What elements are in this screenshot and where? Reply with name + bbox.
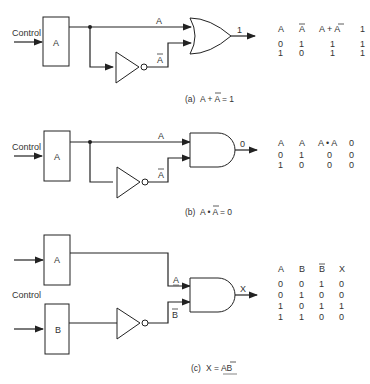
diagram-c: A Control B A B X A B B X 0 0 1 0 0 1 0 … <box>12 235 345 374</box>
svg-text:0: 0 <box>299 279 304 289</box>
and-gate-icon <box>190 133 235 167</box>
caption-b-prefix: (b) <box>185 207 196 217</box>
output-label: X <box>240 284 246 294</box>
svg-text:0: 0 <box>349 150 354 160</box>
caption-b-expr: A • A = 0 <box>200 207 232 217</box>
svg-text:1: 1 <box>299 150 304 160</box>
inverter-icon <box>116 52 139 83</box>
wire-a <box>70 253 190 286</box>
svg-text:1: 1 <box>330 48 335 58</box>
svg-text:0: 0 <box>319 290 324 300</box>
control-label: Control <box>12 28 41 38</box>
svg-text:1: 1 <box>278 301 283 311</box>
svg-text:0: 0 <box>327 150 332 160</box>
svg-text:0: 0 <box>299 301 304 311</box>
svg-text:1: 1 <box>278 312 283 322</box>
svg-text:A: A <box>299 24 305 34</box>
truth-table-b: A A A • A 0 0 1 0 0 1 0 0 0 <box>278 138 354 170</box>
svg-text:0: 0 <box>319 312 324 322</box>
svg-text:0: 0 <box>327 160 332 170</box>
svg-text:1: 1 <box>299 312 304 322</box>
svg-text:0: 0 <box>349 138 354 148</box>
register-box-a-label: A <box>54 255 60 265</box>
wire-a-label: A <box>156 16 162 26</box>
caption-a-expr: A + A = 1 <box>200 94 234 104</box>
and-gate-icon <box>190 278 235 312</box>
wire-a-label: A <box>173 275 179 285</box>
output-label: 0 <box>240 139 245 149</box>
wire-not-b-label: B <box>172 310 178 320</box>
svg-text:B: B <box>319 264 325 274</box>
svg-text:0: 0 <box>339 312 344 322</box>
branch-wire <box>90 27 113 67</box>
branch-wire <box>90 142 113 182</box>
output-label: 1 <box>237 25 242 35</box>
svg-text:0: 0 <box>278 279 283 289</box>
svg-text:0: 0 <box>299 48 304 58</box>
svg-text:X: X <box>339 264 345 274</box>
svg-text:1: 1 <box>360 24 365 34</box>
wire-not-b <box>148 302 190 323</box>
svg-text:0: 0 <box>278 290 283 300</box>
svg-text:1: 1 <box>299 290 304 300</box>
svg-text:A • A: A • A <box>318 138 337 148</box>
svg-text:B: B <box>299 264 305 274</box>
diagram-b: Control A A A 0 A A A • A 0 0 1 0 0 1 0 … <box>12 131 354 217</box>
diagram-a: Control A A A 1 A A A + A 1 0 1 1 1 <box>12 16 365 104</box>
wire-not-a-label: A <box>158 170 164 180</box>
svg-text:0: 0 <box>278 150 283 160</box>
svg-text:0: 0 <box>339 290 344 300</box>
svg-text:1: 1 <box>360 48 365 58</box>
or-gate-icon <box>190 18 231 54</box>
truth-table-c: A B B X 0 0 1 0 0 1 0 0 1 0 1 1 1 1 0 0 <box>278 264 345 322</box>
inverter-icon <box>117 167 140 198</box>
svg-text:1: 1 <box>319 301 324 311</box>
inverter-icon <box>117 308 140 339</box>
wire-a-label: A <box>158 131 164 141</box>
svg-text:1: 1 <box>278 48 283 58</box>
svg-text:A: A <box>278 264 284 274</box>
control-label: Control <box>12 142 41 152</box>
svg-text:1: 1 <box>339 301 344 311</box>
caption-c-prefix: (c) <box>191 363 201 373</box>
svg-text:0: 0 <box>339 279 344 289</box>
register-box-label: A <box>54 152 60 162</box>
svg-text:A: A <box>278 24 284 34</box>
control-label: Control <box>12 290 41 300</box>
svg-text:1: 1 <box>319 279 324 289</box>
caption-c-expr: X = AB <box>206 363 233 373</box>
wire-not-a <box>148 158 190 182</box>
register-box-label: A <box>53 38 59 48</box>
svg-text:A: A <box>299 138 305 148</box>
svg-text:0: 0 <box>299 160 304 170</box>
register-box-b-label: B <box>55 325 61 335</box>
caption-a-prefix: (a) <box>185 94 196 104</box>
svg-text:A: A <box>278 138 284 148</box>
svg-text:1: 1 <box>278 160 283 170</box>
wire-not-a <box>147 43 191 67</box>
svg-text:0: 0 <box>349 160 354 170</box>
logic-diagram-figure: Control A A A 1 A A A + A 1 0 1 1 1 <box>0 0 370 384</box>
svg-text:A + A: A + A <box>319 24 340 34</box>
wire-not-a-label: A <box>157 55 163 65</box>
truth-table-a: A A A + A 1 0 1 1 1 1 0 1 1 <box>278 24 365 58</box>
